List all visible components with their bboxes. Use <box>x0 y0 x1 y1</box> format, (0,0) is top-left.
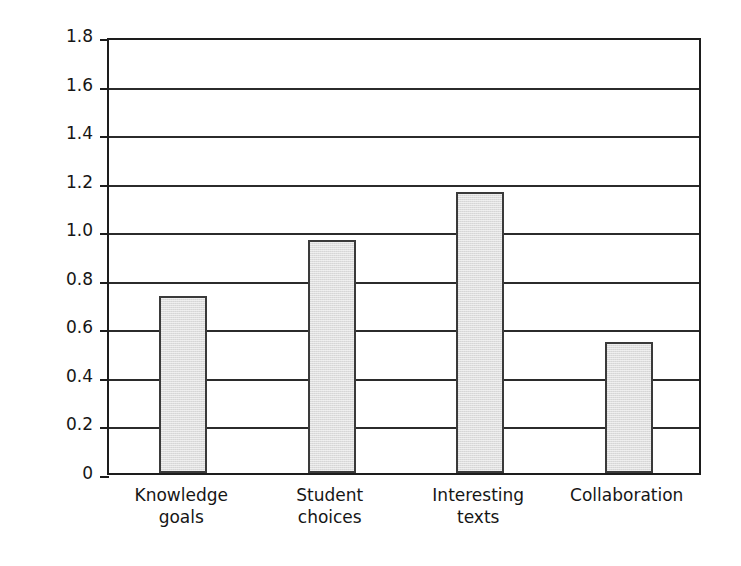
y-axis-tick <box>100 233 109 235</box>
x-axis-category-label-line: choices <box>245 506 415 528</box>
y-axis-tick-label: 1.8 <box>19 28 93 45</box>
y-axis-tick <box>100 476 109 478</box>
y-axis-tick-label: 0.6 <box>19 319 93 336</box>
y-axis-tick-label: 0 <box>19 465 93 482</box>
x-axis-category-label: Collaboration <box>542 484 712 506</box>
y-axis-tick <box>100 185 109 187</box>
y-axis-tick <box>100 136 109 138</box>
y-axis-tick <box>100 330 109 332</box>
y-axis-tick-label: 0.4 <box>19 368 93 385</box>
y-axis-tick-label: 1.2 <box>19 174 93 191</box>
bar-chart-figure: Effect size 00.20.40.60.81.01.21.41.61.8… <box>0 0 741 566</box>
y-axis-tick <box>100 282 109 284</box>
gridline <box>109 88 699 90</box>
y-axis-tick-label: 1.6 <box>19 77 93 94</box>
x-axis-category-label-line: Collaboration <box>542 484 712 506</box>
x-axis-category-label-line: Student <box>245 484 415 506</box>
bar <box>308 240 356 473</box>
y-axis-tick-label: 0.2 <box>19 416 93 433</box>
bar <box>456 192 504 473</box>
x-axis-category-label-line: texts <box>393 506 563 528</box>
x-axis-category-label: Interestingtexts <box>393 484 563 529</box>
y-axis-tick <box>100 427 109 429</box>
plot-area <box>107 38 701 475</box>
y-axis-tick <box>100 39 109 41</box>
x-axis-category-label-line: goals <box>96 506 266 528</box>
x-axis-category-label-line: Knowledge <box>96 484 266 506</box>
gridline <box>109 233 699 235</box>
gridline <box>109 282 699 284</box>
y-axis-tick <box>100 88 109 90</box>
y-axis-tick-label: 0.8 <box>19 271 93 288</box>
bar <box>159 296 207 473</box>
y-axis-tick <box>100 379 109 381</box>
y-axis-tick-label: 1.0 <box>19 222 93 239</box>
x-axis-category-label: Knowledgegoals <box>96 484 266 529</box>
x-axis-category-label: Studentchoices <box>245 484 415 529</box>
bar <box>605 342 653 473</box>
x-axis-category-label-line: Interesting <box>393 484 563 506</box>
gridline <box>109 136 699 138</box>
y-axis-tick-label: 1.4 <box>19 125 93 142</box>
gridline <box>109 185 699 187</box>
